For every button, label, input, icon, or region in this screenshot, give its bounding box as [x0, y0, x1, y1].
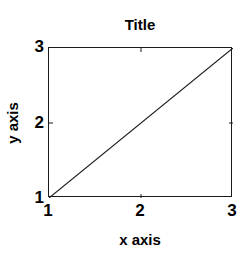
chart-title: Title: [48, 16, 232, 34]
plot-area: [48, 47, 232, 197]
x-tick-label-2: 2: [128, 202, 152, 219]
chart-figure: Title 3 2 1 1 2 3 x axis y axis: [0, 0, 246, 260]
y-tick-label-3: 3: [26, 38, 44, 55]
x-tick-label-1: 1: [36, 202, 60, 219]
data-line-identity: [49, 48, 233, 198]
x-axis-label: x axis: [48, 231, 232, 249]
y-tick-label-2: 2: [26, 114, 44, 131]
x-tick-label-3: 3: [220, 202, 244, 219]
plot-canvas: [49, 48, 233, 198]
y-axis-label: y axis: [4, 88, 22, 158]
